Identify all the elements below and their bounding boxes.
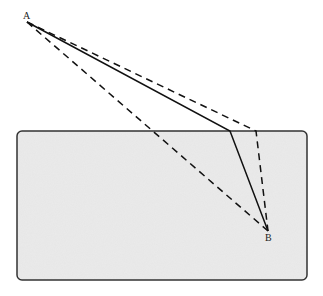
obstacle-rectangle xyxy=(17,131,307,280)
point-label-a: A xyxy=(23,10,31,21)
point-label-b: B xyxy=(265,232,272,243)
path-diagram: A B xyxy=(0,0,323,296)
